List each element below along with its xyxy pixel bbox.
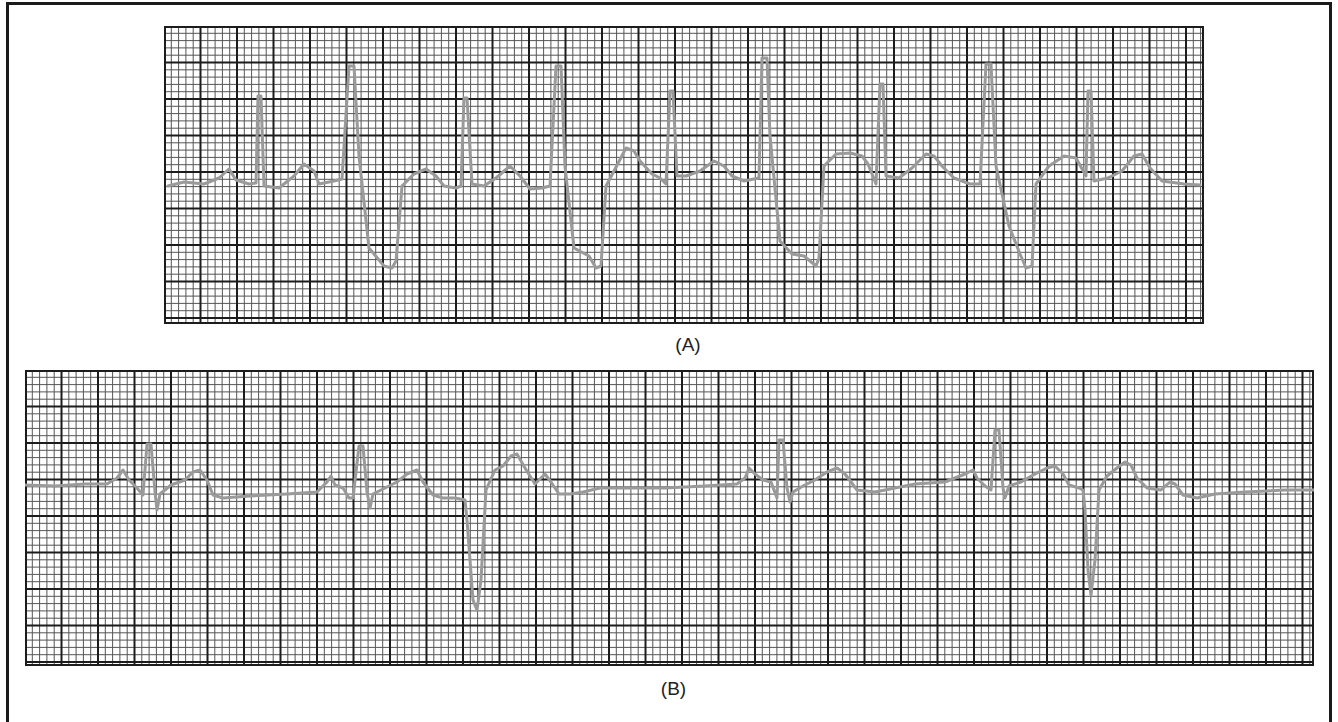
- ecg-strip-b: [25, 370, 1314, 666]
- strip-b-label: (B): [644, 678, 704, 700]
- ecg-strip-a: [164, 26, 1204, 324]
- ecg-grid: [164, 26, 1204, 324]
- ecg-grid: [25, 370, 1314, 666]
- strip-a-label: (A): [658, 334, 718, 356]
